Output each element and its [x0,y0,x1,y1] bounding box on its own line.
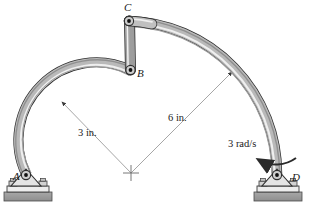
joint-label-B: B [137,68,144,79]
mechanism-figure: A B C D 3 in. 6 in. 3 rad/s [0,0,312,205]
joint-label-C: C [124,2,131,13]
joint-label-D: D [292,172,300,183]
ground-block-A [4,192,52,201]
pinned-support-A[interactable] [4,169,52,201]
straight-link-BC[interactable] [127,21,134,70]
ground-block-D [254,192,302,201]
curved-link-AB[interactable] [16,60,131,175]
dimension-label-3in: 3 in. [78,128,97,139]
pin-joint-C[interactable] [124,16,133,25]
figure-canvas [0,0,312,205]
pin-joint-B[interactable] [126,65,135,74]
curved-link-CD[interactable] [129,19,280,175]
angular-velocity-label: 3 rad/s [228,139,256,150]
joint-label-A: A [13,171,20,182]
dimension-label-6in: 6 in. [168,113,187,124]
